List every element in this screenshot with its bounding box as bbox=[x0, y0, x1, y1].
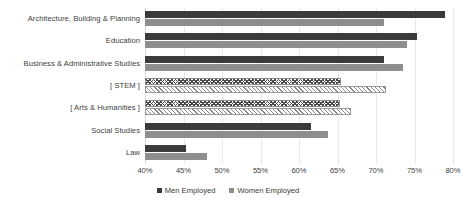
x-tick-label: 75% bbox=[407, 166, 422, 175]
bar-group bbox=[145, 100, 453, 116]
bar-group bbox=[145, 56, 453, 72]
bar-women bbox=[145, 86, 386, 93]
gridline bbox=[453, 8, 454, 164]
category-label: [ STEM ] bbox=[0, 81, 140, 90]
x-tick-label: 55% bbox=[253, 166, 268, 175]
bar-men bbox=[145, 78, 341, 85]
category-label: [ Arts & Humanities ] bbox=[0, 103, 140, 112]
x-tick-label: 50% bbox=[214, 166, 229, 175]
bar-group bbox=[145, 11, 453, 27]
legend-label-women: Women Employed bbox=[237, 186, 299, 195]
x-tick-label: 80% bbox=[445, 166, 460, 175]
legend-item-men: Men Employed bbox=[157, 186, 216, 195]
bar-men bbox=[145, 145, 186, 152]
category-label: Business & Administrative Studies bbox=[0, 59, 140, 68]
x-axis: 40%45%50%55%60%65%70%75%80% bbox=[145, 166, 453, 178]
category-label: Law bbox=[0, 148, 140, 157]
bar-men bbox=[145, 11, 445, 18]
bar-men bbox=[145, 56, 384, 63]
x-tick-label: 45% bbox=[176, 166, 191, 175]
legend-swatch-men-icon bbox=[157, 188, 162, 193]
x-tick-label: 65% bbox=[330, 166, 345, 175]
legend-item-women: Women Employed bbox=[229, 186, 299, 195]
legend-swatch-women-icon bbox=[229, 188, 234, 193]
bar-group bbox=[145, 78, 453, 94]
bar-women bbox=[145, 153, 207, 160]
bar-women bbox=[145, 19, 384, 26]
category-label: Education bbox=[0, 36, 140, 45]
legend-label-men: Men Employed bbox=[165, 186, 216, 195]
bar-women bbox=[145, 131, 328, 138]
bar-women bbox=[145, 41, 407, 48]
plot-area bbox=[145, 8, 453, 164]
bar-group bbox=[145, 123, 453, 139]
bar-group bbox=[145, 33, 453, 49]
bar-women bbox=[145, 108, 351, 115]
bar-men bbox=[145, 100, 340, 107]
bar-group bbox=[145, 145, 453, 161]
bar-men bbox=[145, 123, 311, 130]
category-label: Architecture, Building & Planning bbox=[0, 14, 140, 23]
x-tick-label: 40% bbox=[137, 166, 152, 175]
x-tick-label: 60% bbox=[291, 166, 306, 175]
category-axis: Architecture, Building & PlanningEducati… bbox=[0, 8, 140, 164]
chart-legend: Men Employed Women Employed bbox=[0, 183, 456, 197]
category-label: Social Studies bbox=[0, 126, 140, 135]
bar-women bbox=[145, 64, 403, 71]
bar-men bbox=[145, 33, 417, 40]
x-tick-label: 70% bbox=[368, 166, 383, 175]
